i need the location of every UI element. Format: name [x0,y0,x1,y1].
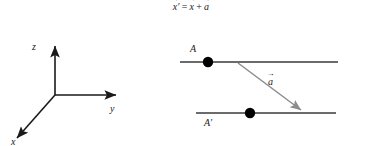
plane-lower-group [196,108,336,118]
axis-x-line [17,95,55,138]
vector-arrow-icon: → [267,70,275,78]
figure-canvas [0,0,382,146]
translation-vector-label: →a [268,76,273,87]
upper-point-dot [203,57,213,67]
plane-upper-group [180,57,338,67]
axis-label-x: x [11,136,15,146]
lower-line-label: A′ [204,117,212,128]
lower-point-dot [245,108,255,118]
upper-line-label: A [190,43,196,54]
coordinate-axes [17,46,116,138]
vector-translation-figure: →x′=→x+→a z y x A A′ →a [0,0,382,146]
axis-label-y: y [110,103,114,114]
vector-a-symbol-wrap: →a [268,76,273,87]
axis-label-z: z [32,41,36,52]
